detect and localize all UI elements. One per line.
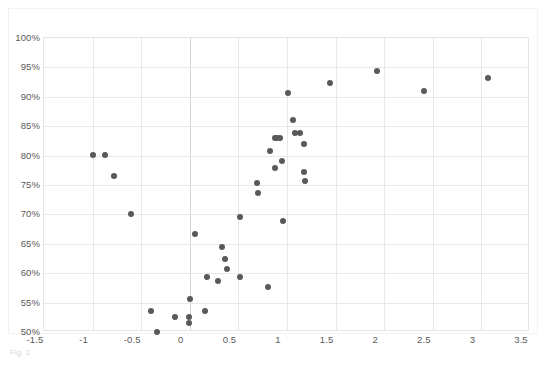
scatter-point xyxy=(285,90,291,96)
scatter-point xyxy=(102,152,108,158)
gridline-vertical xyxy=(287,38,288,330)
scatter-point xyxy=(148,308,154,314)
x-axis-tick-label: -1.5 xyxy=(27,334,44,345)
y-axis-tick-label: 75% xyxy=(21,179,40,190)
y-axis-line xyxy=(190,38,191,330)
scatter-point xyxy=(421,88,427,94)
scatter-point xyxy=(254,180,260,186)
y-axis-tick-label: 85% xyxy=(21,120,40,131)
y-axis-tick-label: 80% xyxy=(21,149,40,160)
scatter-point xyxy=(237,214,243,220)
gridline-vertical xyxy=(481,38,482,330)
scatter-point xyxy=(267,148,273,154)
scatter-point xyxy=(222,256,228,262)
y-axis-tick-label: 100% xyxy=(15,32,40,43)
scatter-point xyxy=(186,320,192,326)
y-axis-tick-label: 65% xyxy=(21,237,40,248)
y-axis-tick-label: 60% xyxy=(21,267,40,278)
gridline-horizontal xyxy=(44,97,528,98)
scatter-point xyxy=(202,308,208,314)
scatter-point xyxy=(215,278,221,284)
scatter-point xyxy=(301,141,307,147)
x-axis-tick-label: -1 xyxy=(79,334,88,345)
scatter-point xyxy=(374,68,380,74)
x-axis-tick-label: 0 xyxy=(178,334,183,345)
scatter-point xyxy=(128,211,134,217)
gridline-horizontal xyxy=(44,67,528,68)
x-axis-tick-label: 1 xyxy=(275,334,280,345)
gridline-vertical xyxy=(433,38,434,330)
gridline-vertical xyxy=(93,38,94,330)
y-axis-tick-label: 55% xyxy=(21,296,40,307)
scatter-point xyxy=(219,244,225,250)
y-axis-tick-labels: 50%55%60%65%70%75%80%85%90%95%100% xyxy=(9,37,40,331)
y-axis-tick-label: 90% xyxy=(21,90,40,101)
x-axis-tick-label: 0.5 xyxy=(223,334,237,345)
scatter-point xyxy=(255,190,261,196)
y-axis-tick-label: 70% xyxy=(21,208,40,219)
scatter-point xyxy=(485,75,491,81)
gridline-horizontal xyxy=(44,244,528,245)
scatter-point xyxy=(172,314,178,320)
scatter-point xyxy=(192,231,198,237)
scatter-point xyxy=(301,169,307,175)
scatter-point xyxy=(279,158,285,164)
figure-container: 50%55%60%65%70%75%80%85%90%95%100% -1.5-… xyxy=(0,0,546,365)
gridline-vertical xyxy=(238,38,239,330)
figure-caption: Fig. 2 xyxy=(10,348,30,357)
scatter-point xyxy=(272,165,278,171)
scatter-point xyxy=(327,80,333,86)
scatter-point xyxy=(290,117,296,123)
gridline-horizontal xyxy=(44,156,528,157)
x-axis-tick-labels: -1.5-1-0.500.511.522.533.5 xyxy=(9,334,539,350)
scatter-point xyxy=(90,152,96,158)
scatter-point xyxy=(265,284,271,290)
scatter-point xyxy=(187,296,193,302)
x-axis-tick-label: 3.5 xyxy=(514,334,528,345)
plot-area xyxy=(43,37,529,331)
chart-frame: 50%55%60%65%70%75%80%85%90%95%100% -1.5-… xyxy=(8,8,538,334)
scatter-point xyxy=(224,266,230,272)
y-axis-tick-label: 95% xyxy=(21,61,40,72)
gridline-vertical xyxy=(141,38,142,330)
gridline-horizontal xyxy=(44,214,528,215)
scatter-point xyxy=(297,130,303,136)
scatter-point xyxy=(277,135,283,141)
x-axis-tick-label: 2 xyxy=(372,334,377,345)
gridline-vertical xyxy=(336,38,337,330)
gridline-horizontal xyxy=(44,303,528,304)
scatter-point xyxy=(280,218,286,224)
scatter-point xyxy=(111,173,117,179)
scatter-point xyxy=(302,178,308,184)
gridline-horizontal xyxy=(44,273,528,274)
x-axis-tick-label: 3 xyxy=(470,334,475,345)
x-axis-tick-label: -0.5 xyxy=(124,334,141,345)
gridline-vertical xyxy=(384,38,385,330)
scatter-point xyxy=(204,274,210,280)
x-axis-tick-label: 2.5 xyxy=(417,334,431,345)
gridline-horizontal xyxy=(44,126,528,127)
scatter-point xyxy=(237,274,243,280)
gridline-horizontal xyxy=(44,185,528,186)
x-axis-tick-label: 1.5 xyxy=(320,334,334,345)
